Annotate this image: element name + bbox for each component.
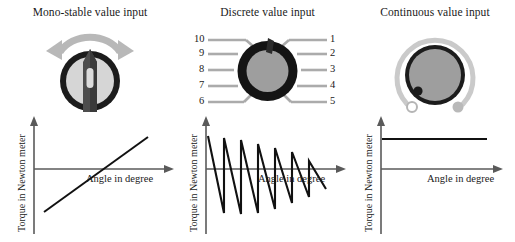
y-axis-label: Torque in Newton meter xyxy=(363,134,374,232)
detent-label-7: 7 xyxy=(199,79,204,90)
x-axis-label: Angle in degree xyxy=(258,173,325,184)
arc-endpoint-start-icon xyxy=(407,102,417,112)
panel-title-discrete: Discrete value input xyxy=(180,6,355,18)
knob-mono-stable[interactable] xyxy=(0,24,180,116)
detent-label-1: 1 xyxy=(330,33,335,44)
chart-continuous: Torque in Newton meter Angle in degree xyxy=(355,114,515,242)
detent-label-10: 10 xyxy=(194,33,205,44)
panel-title-continuous: Continuous value input xyxy=(355,6,515,18)
y-axis-label: Torque in Newton meter xyxy=(16,134,27,232)
chart-mono-stable: Torque in Newton meter Angle in degree xyxy=(0,114,180,242)
panel-title-mono-stable: Mono-stable value input xyxy=(0,6,180,18)
arc-endpoint-end-icon xyxy=(453,102,464,113)
detent-labels: 10 9 8 7 6 1 2 3 4 5 xyxy=(180,24,355,116)
detent-label-6: 6 xyxy=(199,95,204,106)
knob-body-icon xyxy=(405,45,465,105)
knob-indicator-dot-icon xyxy=(413,86,422,95)
detent-label-8: 8 xyxy=(199,63,204,74)
x-axis-label: Angle in degree xyxy=(86,173,153,184)
detent-label-2: 2 xyxy=(330,47,335,58)
knob-pointer-icon xyxy=(83,49,97,112)
knob-continuous[interactable] xyxy=(355,24,515,116)
panel-continuous: Continuous value input Torque in Newton … xyxy=(355,0,515,242)
knob-discrete[interactable]: 10 9 8 7 6 1 2 3 4 5 xyxy=(180,24,355,116)
chart-discrete: Torque in Newton meter Angle in degree xyxy=(180,114,355,242)
detent-label-3: 3 xyxy=(330,63,335,74)
y-axis-label: Torque in Newton meter xyxy=(188,134,199,232)
panel-discrete: Discrete value input xyxy=(180,0,355,242)
panel-mono-stable: Mono-stable value input Torque in Newton xyxy=(0,0,180,242)
detent-label-9: 9 xyxy=(199,47,204,58)
x-axis-label: Angle in degree xyxy=(427,173,494,184)
detent-label-4: 4 xyxy=(330,79,335,90)
detent-label-5: 5 xyxy=(330,95,335,106)
